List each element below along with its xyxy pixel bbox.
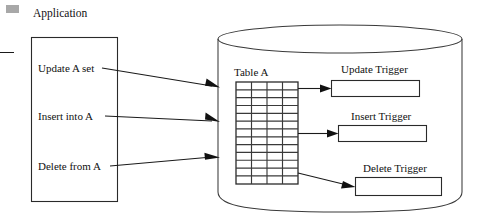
- arrow-table-to-insert-trigger: [298, 130, 339, 138]
- table-a-grid: [236, 82, 298, 184]
- arrow-insert-to-db: [105, 113, 220, 123]
- gray-square-marker-icon: [6, 5, 19, 13]
- insert-trigger-label: Insert Trigger: [351, 110, 412, 122]
- arrow-delete-to-db: [110, 153, 220, 166]
- cylinder-top-ellipse: [218, 25, 462, 53]
- arrow-table-to-update-trigger: [298, 85, 332, 93]
- diagram-canvas: Application Update A set Insert into A D…: [0, 0, 482, 223]
- statement-delete: Delete from A: [38, 160, 101, 172]
- delete-trigger-label: Delete Trigger: [363, 162, 427, 174]
- statement-insert: Insert into A: [38, 110, 93, 122]
- table-a-label: Table A: [234, 66, 268, 78]
- arrow-table-to-delete-trigger: [298, 173, 356, 189]
- diagram-svg: Application Update A set Insert into A D…: [0, 0, 482, 223]
- update-trigger-label: Update Trigger: [341, 63, 408, 75]
- arrow-update-to-db: [102, 68, 220, 88]
- statement-update: Update A set: [38, 62, 94, 74]
- update-trigger-box: [332, 81, 420, 97]
- delete-trigger-box: [356, 178, 442, 196]
- application-title: Application: [33, 7, 88, 20]
- insert-trigger-box: [339, 126, 427, 142]
